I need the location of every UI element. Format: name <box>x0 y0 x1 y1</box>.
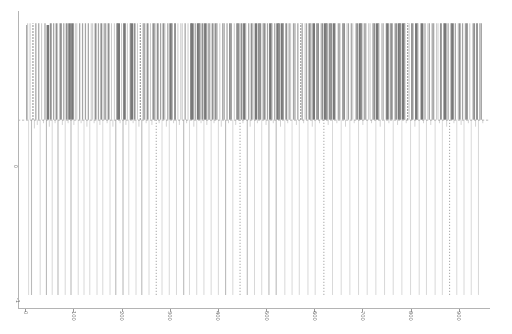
x-tick-label: 600 <box>312 311 317 321</box>
spike-plot-canvas <box>18 11 490 309</box>
x-tick-label: 0 <box>23 311 28 314</box>
y-axis-spine <box>18 11 19 309</box>
y-tick-label-zero: 0 <box>13 165 18 168</box>
x-tick-label: 100 <box>71 311 76 321</box>
chart-figure: 0 -1 0100200300400500600700800900 <box>0 0 512 334</box>
y-tick-label-minus-one: -1 <box>15 298 20 303</box>
plot-area <box>18 11 490 309</box>
x-tick-label: 300 <box>167 311 172 321</box>
x-tick-label: 700 <box>360 311 365 321</box>
x-tick-label: 900 <box>456 311 461 321</box>
x-axis-spine <box>18 308 490 309</box>
x-tick-label: 500 <box>263 311 268 321</box>
x-tick-label: 800 <box>408 311 413 321</box>
x-tick-label: 400 <box>215 311 220 321</box>
x-tick-label: 200 <box>119 311 124 321</box>
